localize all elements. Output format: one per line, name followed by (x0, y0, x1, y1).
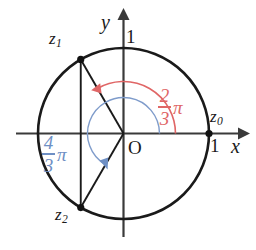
point-label-z0-subscript: 0 (217, 115, 223, 128)
angle-label-red-numerator: 2 (159, 86, 171, 105)
point-z2 (77, 204, 84, 211)
x-unit-label: 1 (210, 136, 220, 155)
angle-label-red-denominator: 3 (159, 109, 171, 128)
y-unit-label: 1 (126, 27, 136, 46)
angle-label-red-fraction: 2 3 (158, 86, 171, 128)
angle-label-blue: 4 3 π (42, 133, 67, 175)
unit-circle-diagram: y 1 x 1 O z0 z1 z2 2 3 π 4 3 π (0, 0, 256, 250)
angle-label-blue-numerator: 4 (43, 133, 55, 152)
point-label-z1-subscript: 1 (56, 37, 62, 50)
radius-to-z1 (81, 59, 124, 133)
radius-to-z2 (81, 134, 124, 208)
angle-label-blue-pi: π (57, 145, 67, 164)
point-label-z1-base: z (49, 29, 56, 48)
point-label-z2-subscript: 2 (62, 213, 68, 226)
point-label-z0-base: z (210, 107, 217, 126)
angle-label-blue-fraction: 4 3 (42, 133, 55, 175)
y-axis-arrowhead (118, 8, 130, 20)
y-axis-label: y (101, 12, 110, 32)
origin-label: O (128, 138, 142, 157)
angle-label-blue-denominator: 3 (43, 156, 55, 175)
point-label-z0: z0 (210, 108, 223, 128)
point-label-z2: z2 (55, 206, 68, 226)
point-label-z2-base: z (55, 205, 62, 224)
x-axis-label: x (231, 136, 240, 156)
angle-label-red: 2 3 π (158, 86, 183, 128)
angle-label-red-pi: π (173, 98, 183, 117)
point-z1 (77, 56, 84, 63)
point-label-z1: z1 (49, 30, 62, 50)
